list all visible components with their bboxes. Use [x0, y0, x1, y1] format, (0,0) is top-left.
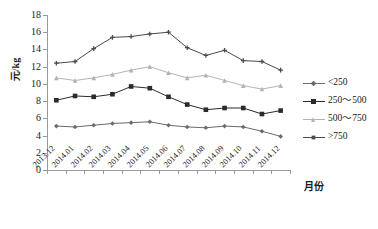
- data-point: [260, 129, 265, 134]
- data-point: [204, 107, 209, 112]
- data-point: [241, 106, 246, 111]
- data-point: [54, 98, 59, 103]
- data-point: [204, 53, 209, 58]
- legend-item-label: 500～750: [328, 114, 367, 124]
- x-tick: [159, 170, 160, 174]
- data-point: [278, 134, 283, 139]
- data-point: [73, 94, 78, 99]
- series-500-750: [54, 64, 283, 91]
- x-tick: [253, 170, 254, 174]
- x-tick: [271, 170, 272, 174]
- data-point: [91, 95, 96, 100]
- legend-item[interactable]: 500～750: [303, 110, 378, 128]
- legend-item[interactable]: 250～500: [303, 92, 378, 110]
- legend-swatch-icon: [303, 133, 325, 142]
- x-tick: [47, 170, 48, 174]
- y-tick-label: 8: [36, 96, 41, 106]
- legend-swatch-icon: [303, 115, 325, 124]
- data-point: [278, 68, 283, 73]
- y-axis-title: 元/kg: [7, 40, 22, 100]
- legend-swatch-icon: [303, 97, 325, 106]
- data-point: [166, 95, 171, 100]
- y-tick-label: 10: [31, 79, 41, 89]
- y-tick-label: 12: [31, 62, 41, 72]
- data-point: [148, 32, 153, 37]
- data-point: [110, 92, 115, 97]
- data-point: [129, 34, 134, 39]
- x-tick: [234, 170, 235, 174]
- x-tick: [140, 170, 141, 174]
- data-point: [185, 102, 190, 107]
- data-point: [222, 124, 227, 129]
- x-tick: [178, 170, 179, 174]
- data-point: [148, 86, 153, 91]
- data-point: [54, 124, 59, 129]
- line-chart: 元/kg 024681012141618 2013.122014.012014.…: [0, 0, 378, 229]
- y-tick-label: 6: [36, 113, 41, 123]
- data-point: [91, 123, 96, 128]
- legend-item-label: >750: [328, 132, 348, 142]
- data-point: [54, 61, 59, 66]
- x-tick: [197, 170, 198, 174]
- legend-item[interactable]: <250: [303, 74, 378, 92]
- series-line: [56, 32, 280, 70]
- x-axis-title: 月份: [304, 178, 324, 193]
- series-750: [54, 30, 283, 72]
- legend-swatch-icon: [303, 79, 325, 88]
- data-point: [222, 48, 227, 53]
- data-point: [129, 84, 134, 89]
- data-point: [278, 108, 283, 113]
- data-point: [148, 119, 153, 124]
- y-tick-label: 18: [31, 10, 41, 20]
- data-point: [110, 121, 115, 126]
- data-point: [260, 112, 265, 117]
- x-tick: [66, 170, 67, 174]
- x-tick: [290, 170, 291, 174]
- series-250: [54, 119, 283, 138]
- legend-item[interactable]: >750: [303, 128, 378, 146]
- data-point: [110, 35, 115, 40]
- x-tick: [84, 170, 85, 174]
- chart-legend: <250250～500500～750>750: [303, 74, 378, 146]
- data-point: [241, 58, 246, 63]
- x-tick: [103, 170, 104, 174]
- legend-item-label: <250: [328, 78, 348, 88]
- y-tick-label: 14: [31, 44, 41, 54]
- legend-item-label: 250～500: [328, 96, 367, 106]
- y-tick-label: 4: [36, 131, 41, 141]
- data-point: [166, 123, 171, 128]
- x-tick: [215, 170, 216, 174]
- data-point: [129, 120, 134, 125]
- x-tick: [122, 170, 123, 174]
- y-tick-label: 16: [31, 27, 41, 37]
- data-point: [241, 125, 246, 130]
- series-line: [56, 67, 280, 89]
- series-250-500: [54, 84, 283, 116]
- data-point: [73, 125, 78, 130]
- data-point: [204, 126, 209, 131]
- data-point: [222, 106, 227, 111]
- data-point: [185, 125, 190, 130]
- data-point: [260, 59, 265, 64]
- series-line: [56, 86, 280, 114]
